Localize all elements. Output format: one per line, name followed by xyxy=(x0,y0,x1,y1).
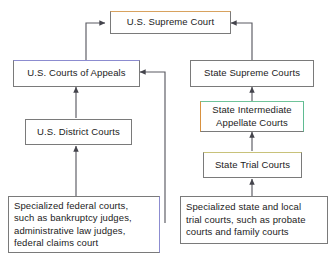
edge-state-supreme-to-supreme xyxy=(231,23,252,60)
node-us-supreme-court[interactable]: U.S. Supreme Court xyxy=(110,11,231,34)
node-specialized-state-local-trial-courts[interactable]: Specialized state and local trial courts… xyxy=(180,196,328,244)
node-label: State Supreme Courts xyxy=(200,67,304,80)
node-specialized-federal-courts[interactable]: Specialized federal courts, such as bank… xyxy=(8,196,160,253)
node-label: U.S. Courts of Appeals xyxy=(23,67,129,80)
node-state-trial-courts[interactable]: State Trial Courts xyxy=(203,152,302,178)
node-label: Specialized federal courts, such as bank… xyxy=(9,200,137,250)
node-label: State Trial Courts xyxy=(211,159,294,172)
court-system-diagram: U.S. Supreme Court U.S. Courts of Appeal… xyxy=(0,0,336,259)
node-label: Specialized state and local trial courts… xyxy=(181,201,311,239)
node-us-courts-of-appeals[interactable]: U.S. Courts of Appeals xyxy=(13,60,140,87)
node-label: State Intermediate Appellate Courts xyxy=(208,104,295,129)
node-us-district-courts[interactable]: U.S. District Courts xyxy=(25,119,132,145)
edge-appeals-to-supreme xyxy=(86,23,105,60)
node-state-intermediate-appellate-courts[interactable]: State Intermediate Appellate Courts xyxy=(200,101,304,132)
node-label: U.S. District Courts xyxy=(33,126,124,139)
node-state-supreme-courts[interactable]: State Supreme Courts xyxy=(190,60,314,87)
node-label: U.S. Supreme Court xyxy=(123,16,218,29)
